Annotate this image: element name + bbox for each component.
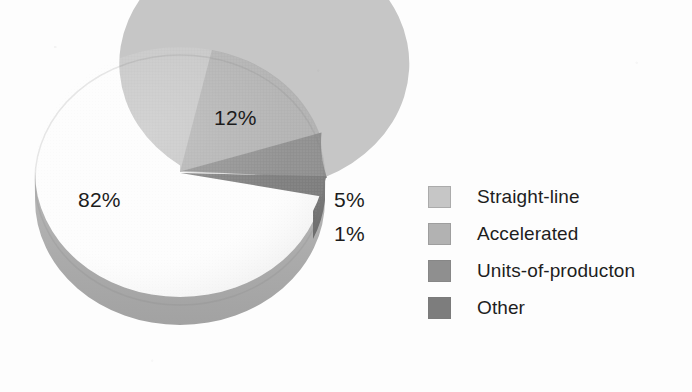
legend-swatch-other <box>428 297 451 319</box>
legend-label-straight-line: Straight-line <box>477 186 580 208</box>
legend-item-straight-line: Straight-line <box>428 178 678 215</box>
legend-label-units-of-production: Units-of-producton <box>477 260 635 282</box>
legend-swatch-accelerated <box>428 223 451 245</box>
legend-swatch-straight-line <box>428 186 451 208</box>
legend-label-other: Other <box>477 297 525 319</box>
pie-chart-figure: 82% 12% 5% 1% Straight-line Accelerated … <box>0 0 692 392</box>
legend-item-accelerated: Accelerated <box>428 215 678 252</box>
legend-label-accelerated: Accelerated <box>477 223 578 245</box>
slice-value-label-accelerated: 12% <box>214 106 257 130</box>
chart-legend: Straight-line Accelerated Units-of-produ… <box>428 178 678 326</box>
slice-value-label-other: 1% <box>334 222 365 246</box>
legend-swatch-units-of-production <box>428 260 451 282</box>
pie-chart-plot-area: 82% 12% 5% 1% <box>0 0 420 392</box>
slice-value-label-straight-line: 82% <box>78 188 121 212</box>
legend-item-other: Other <box>428 289 678 326</box>
pie-top-face <box>35 0 409 297</box>
pie-slice-other <box>181 173 327 197</box>
slice-value-label-units-of-production: 5% <box>334 188 365 212</box>
legend-item-units-of-production: Units-of-producton <box>428 252 678 289</box>
